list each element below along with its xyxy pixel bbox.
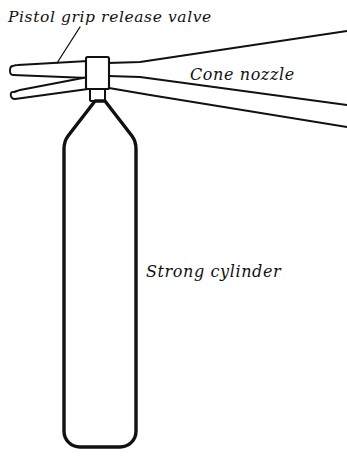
pistol-grip-leader-line xyxy=(57,27,80,63)
fire-extinguisher-diagram: Pistol grip release valve Cone nozzle St… xyxy=(0,0,347,458)
label-cone-nozzle: Cone nozzle xyxy=(190,65,295,84)
valve-body xyxy=(86,57,109,89)
cylinder-body xyxy=(64,101,136,447)
label-strong-cylinder: Strong cylinder xyxy=(146,262,282,281)
upper-handle xyxy=(10,61,88,78)
label-pistol-grip-release-valve: Pistol grip release valve xyxy=(7,8,212,26)
lower-handle xyxy=(11,77,88,99)
valve-neck xyxy=(90,89,105,101)
diagram-canvas: Pistol grip release valve Cone nozzle St… xyxy=(0,0,347,458)
